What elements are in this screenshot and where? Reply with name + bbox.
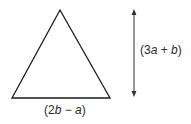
arrow-down-icon [132,91,137,97]
triangle-diagram [0,0,191,124]
height-label-close: ) [178,43,182,57]
base-label: (2b − a) [44,103,86,117]
triangle [12,10,110,98]
base-label-op: − [61,103,75,117]
base-label-open: (2 [44,103,55,117]
height-arrow [132,9,137,97]
base-label-var-a: a [75,103,82,117]
height-label: (3a + b) [140,43,182,57]
height-label-var-b: b [171,43,178,57]
arrow-up-icon [132,9,137,15]
base-label-close: ) [82,103,86,117]
height-label-op: + [157,43,171,57]
height-label-open: (3 [140,43,151,57]
